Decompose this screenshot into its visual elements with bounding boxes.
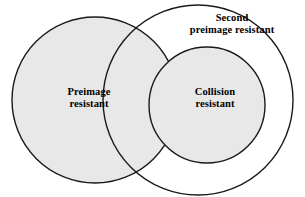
venn-diagram-canvas bbox=[0, 0, 305, 197]
collision-resistant-circle bbox=[149, 47, 265, 163]
venn-diagram-figure: Preimage resistant Second preimage resis… bbox=[0, 0, 305, 197]
